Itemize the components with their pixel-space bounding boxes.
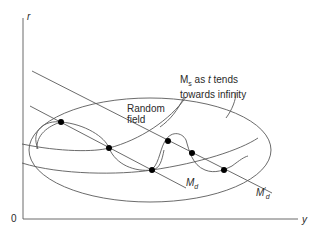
inner-loop-left-arc xyxy=(37,122,61,149)
md-prime-label: M′d xyxy=(256,184,270,202)
random-field-label: Random field xyxy=(127,103,165,125)
ms-label: Ms as t tends towards infinity xyxy=(180,74,246,100)
origin-label: 0 xyxy=(11,213,17,224)
y-axis-label: r xyxy=(27,11,30,22)
intersection-dot xyxy=(149,167,155,173)
wave-curve xyxy=(150,134,248,172)
md-label: Md xyxy=(186,177,198,192)
intersection-dot xyxy=(165,138,171,144)
intersection-dot xyxy=(221,167,227,173)
intersection-dot xyxy=(106,145,112,151)
intersection-dot xyxy=(58,119,64,125)
intersection-dot xyxy=(189,150,195,156)
inner-loop-curve xyxy=(36,122,164,171)
x-axis-label: y xyxy=(302,214,307,225)
